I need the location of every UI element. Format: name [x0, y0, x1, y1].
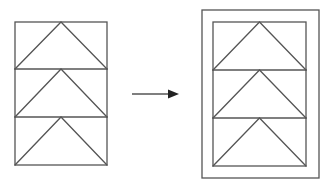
arrow-icon: [132, 90, 179, 99]
left-figure: [15, 22, 107, 165]
left-triangle-1: [15, 22, 107, 69]
right-triangle-3: [213, 118, 306, 166]
left-panel-border: [15, 22, 107, 165]
diagram-canvas: [0, 0, 334, 183]
outer-frame: [202, 10, 319, 178]
right-triangle-2: [213, 70, 306, 118]
left-triangle-2: [15, 69, 107, 117]
right-figure: [202, 10, 319, 178]
right-triangle-1: [213, 22, 306, 70]
left-triangle-3: [15, 117, 107, 165]
right-panel-border: [213, 22, 306, 166]
